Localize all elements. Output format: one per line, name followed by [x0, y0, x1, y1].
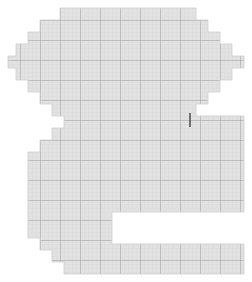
shape-fill-group [0, 0, 252, 282]
figure-canvas [0, 0, 252, 282]
raster-shape-svg [0, 0, 252, 282]
grid-fill-rect [0, 0, 252, 282]
